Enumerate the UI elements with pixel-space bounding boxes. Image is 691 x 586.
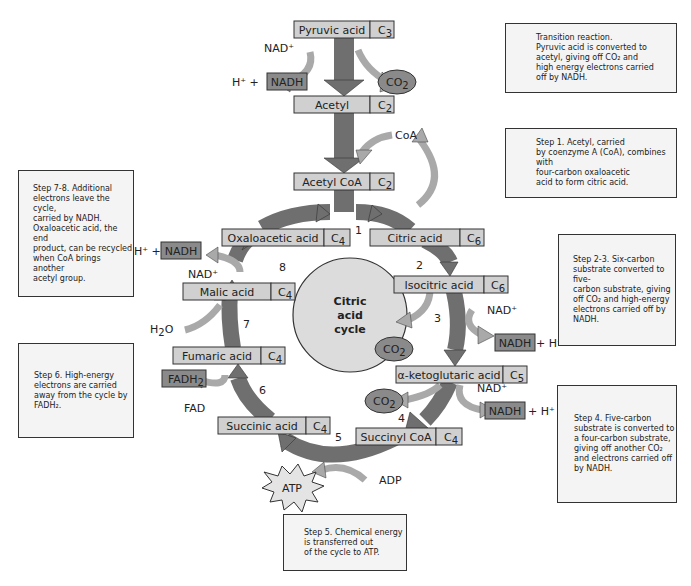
arc-step1 — [356, 212, 410, 230]
co2-ellipse-step3: CO2 — [375, 337, 413, 361]
note-step-7-8-text: Step 7-8. Additional electrons leave the… — [33, 184, 133, 284]
compound-box-ketoglutaric: α-ketoglutaric acid C5 — [396, 366, 527, 384]
nadh-box-step4: NADH — [485, 402, 525, 419]
compound-label: α-ketoglutaric acid — [397, 369, 500, 382]
note-step-1-text: Step 1. Acetyl, carried by coenzyme A (C… — [536, 138, 676, 188]
compound-box-pyruvic: Pyruvic acid C3 — [294, 21, 394, 39]
arrowhead-to-isocitric — [440, 262, 458, 276]
nadh-label: NADH — [489, 405, 522, 418]
side-arrow-h2o — [185, 305, 220, 330]
compound-label: Malic acid — [200, 286, 255, 299]
h-plus-step8: H⁺ + — [134, 245, 161, 258]
fad-label: FAD — [184, 402, 205, 415]
coa-label: CoA — [395, 129, 417, 142]
step-number-5: 5 — [335, 431, 342, 444]
co2-ellipse-step4: CO2 — [365, 389, 403, 413]
adp-label: ADP — [379, 474, 402, 487]
arrowhead-to-ketoglutaric — [444, 350, 466, 366]
nadh-box-step3: NADH — [495, 334, 535, 351]
note-step-4-text: Step 4. Five-carbon substrate is convert… — [574, 414, 674, 474]
note-transition-reaction: Transition reaction. Pyruvic acid is con… — [505, 23, 677, 93]
main-arrow-pyruvic-to-acetyl — [324, 38, 364, 96]
compound-label: Oxaloacetic acid — [228, 232, 319, 245]
step-number-8: 8 — [279, 261, 286, 274]
h2o-label: H2O — [150, 323, 174, 338]
compound-box-malic: Malic acid C4 — [183, 283, 295, 301]
nad-label-step8: NAD⁺ — [188, 268, 218, 281]
compound-label: Acetyl CoA — [302, 176, 362, 189]
compound-label: Acetyl — [315, 99, 349, 112]
h-plus-step4: + H⁺ — [528, 405, 555, 418]
co2-ellipse-transition: CO2 — [378, 70, 416, 94]
compound-box-citric: Citric acid C6 — [370, 229, 484, 247]
h-plus-transition: H⁺ + — [232, 76, 259, 89]
compound-label: Isocitric acid — [404, 279, 473, 292]
compound-label: Citric acid — [388, 232, 443, 245]
compound-box-succinyl-coa: Succinyl CoA C4 — [356, 428, 462, 446]
compound-box-fumaric: Fumaric acid C4 — [173, 347, 285, 365]
note-step-7-8: Step 7-8. Additional electrons leave the… — [18, 170, 134, 297]
nadh-label: NADH — [499, 337, 532, 350]
center-line-1: Citric — [334, 295, 367, 308]
note-step-6: Step 6. High-energy electrons are carrie… — [18, 343, 134, 438]
nad-label-transition: NAD⁺ — [264, 42, 294, 55]
center-line-2: acid — [337, 309, 363, 322]
note-step-2-3: Step 2-3. Six-carbon substrate converted… — [558, 234, 676, 346]
nadh-label: NADH — [271, 76, 304, 89]
compound-box-oxaloacetic: Oxaloacetic acid C4 — [222, 229, 350, 247]
compound-label: Fumaric acid — [182, 350, 252, 363]
note-step-5: Step 5. Chemical energy is transferred o… — [283, 514, 407, 571]
step-number-3: 3 — [434, 312, 441, 325]
step-number-2: 2 — [416, 259, 423, 272]
center-line-3: cycle — [334, 323, 365, 336]
note-step-4: Step 4. Five-carbon substrate is convert… — [557, 385, 677, 503]
compound-box-succinic: Succinic acid C4 — [218, 417, 330, 435]
arrowhead-to-fumaric — [228, 364, 248, 378]
note-step-5-text: Step 5. Chemical energy is transferred o… — [304, 528, 402, 558]
fadh2-box: FADH2 — [162, 370, 206, 388]
main-arrow-acetylcoa-stem — [334, 190, 354, 212]
nadh-box-step8: NADH — [161, 242, 201, 259]
step-number-6: 6 — [259, 384, 266, 397]
note-step-1: Step 1. Acetyl, carried by coenzyme A (C… — [505, 128, 677, 198]
note-step-6-text: Step 6. High-energy electrons are carrie… — [34, 371, 128, 411]
step-number-7: 7 — [243, 318, 250, 331]
atp-label: ATP — [282, 482, 302, 495]
side-arrow-coa-recycle — [418, 140, 435, 205]
compound-box-acetyl: Acetyl C2 — [294, 96, 394, 114]
step-number-1: 1 — [355, 224, 362, 237]
note-transition-text: Transition reaction. Pyruvic acid is con… — [536, 33, 654, 83]
compound-label: Pyruvic acid — [299, 24, 366, 37]
compound-label: Succinyl CoA — [360, 431, 432, 444]
compound-box-acetyl-coa: Acetyl CoA C2 — [294, 173, 394, 191]
main-arrow-acetyl-to-acetylcoa — [324, 112, 364, 173]
side-arrow-co2-step3 — [408, 290, 430, 320]
compound-box-isocitric: Isocitric acid C6 — [394, 276, 508, 294]
side-arrow-coa-in — [362, 135, 392, 152]
note-step-2-3-text: Step 2-3. Six-carbon substrate converted… — [573, 255, 675, 325]
nad-label-step3: NAD⁺ — [487, 304, 517, 317]
nadh-box-transition: NADH — [267, 73, 307, 90]
arc-step3 — [452, 284, 458, 350]
nadh-label: NADH — [165, 245, 198, 258]
compound-label: Succinic acid — [226, 420, 298, 433]
step-number-4: 4 — [398, 412, 405, 425]
nad-label-step4: NAD⁺ — [477, 382, 507, 395]
side-arrow-adp-atp — [322, 468, 365, 480]
